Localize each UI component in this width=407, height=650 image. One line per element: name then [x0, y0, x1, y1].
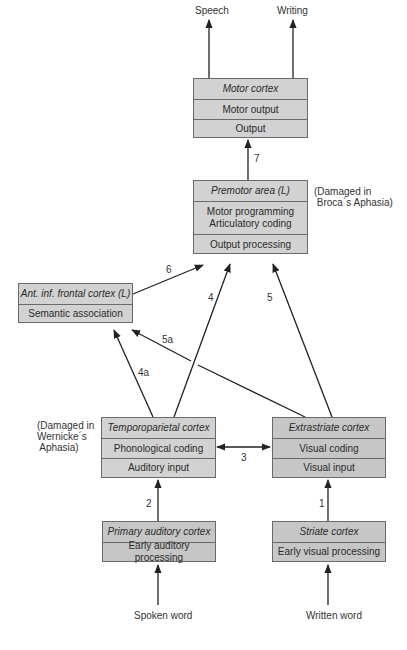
premotor-title: Premotor area (L)	[194, 181, 307, 201]
pathway-4-label: 4	[208, 292, 214, 303]
visual-coding-row: Visual coding	[273, 438, 385, 458]
output-row: Output	[194, 119, 307, 138]
broca-note: (Damaged in Broca´s Aphasia)	[314, 186, 393, 208]
motor-cortex-title: Motor cortex	[194, 79, 307, 99]
pathway-4a-label: 4a	[138, 367, 149, 378]
phonological-coding-row: Phonological coding	[102, 438, 215, 458]
frontal-title: Ant. inf. frontal cortex (L)	[19, 284, 132, 304]
arrow-5	[273, 264, 332, 417]
pathway-5-label: 5	[267, 292, 273, 303]
motor-programming-row: Motor programming Articulatory coding	[194, 201, 307, 234]
visual-input-row: Visual input	[273, 458, 385, 477]
semantic-association-row: Semantic association	[19, 304, 132, 323]
ant-inf-frontal-box: Ant. inf. frontal cortex (L) Semantic as…	[18, 283, 133, 323]
early-auditory-row: Early auditory processing	[103, 542, 215, 561]
speech-label: Speech	[195, 5, 229, 16]
extrastriate-box: Extrastriate cortex Visual coding Visual…	[272, 417, 386, 478]
pathway-6-label: 6	[166, 264, 172, 275]
arrow-5a-segment	[198, 365, 305, 417]
primary-auditory-title: Primary auditory cortex	[103, 522, 215, 542]
striate-cortex-box: Striate cortex Early visual processing	[272, 521, 386, 562]
striate-title: Striate cortex	[273, 522, 385, 542]
motor-cortex-box: Motor cortex Motor output Output	[193, 78, 308, 138]
extrastriate-title: Extrastriate cortex	[273, 418, 385, 438]
writing-label: Writing	[277, 5, 308, 16]
spoken-word-label: Spoken word	[134, 610, 192, 621]
pathway-7-label: 7	[254, 153, 260, 164]
motor-output-row: Motor output	[194, 99, 307, 119]
pathway-1-label: 1	[319, 498, 325, 509]
early-visual-row: Early visual processing	[273, 542, 385, 561]
temporoparietal-box: Temporoparietal cortex Phonological codi…	[101, 417, 216, 478]
premotor-area-box: Premotor area (L) Motor programming Arti…	[193, 180, 308, 254]
pathway-5a-label: 5a	[162, 334, 173, 345]
pathway-2-label: 2	[146, 498, 152, 509]
arrow-4	[174, 264, 230, 417]
auditory-input-row: Auditory input	[102, 458, 215, 477]
output-processing-row: Output processing	[194, 234, 307, 254]
written-word-label: Written word	[306, 610, 362, 621]
pathway-3-label: 3	[241, 452, 247, 463]
primary-auditory-box: Primary auditory cortex Early auditory p…	[102, 521, 216, 562]
wernicke-note: (Damaged in Wernicke´s Aphasia)	[37, 420, 94, 453]
temporoparietal-title: Temporoparietal cortex	[102, 418, 215, 438]
